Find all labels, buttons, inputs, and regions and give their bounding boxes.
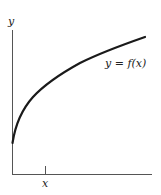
y-axis-label: y	[7, 15, 15, 28]
function-graph: y x y = f(x)	[0, 0, 161, 195]
function-curve	[13, 37, 146, 143]
x-tick-label: x	[42, 177, 49, 190]
curve-label: y = f(x)	[104, 57, 146, 70]
